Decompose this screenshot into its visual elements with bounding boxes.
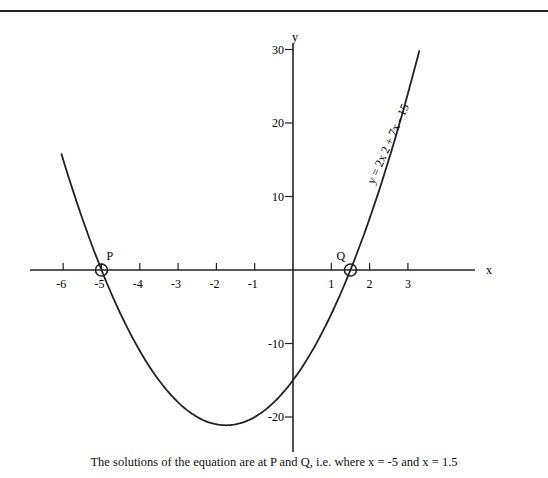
y-tick-label: 20 [272,116,284,130]
x-tick-label: -2 [209,277,219,291]
caption: The solutions of the equation are at P a… [0,455,548,470]
x-axis-label: x [486,263,492,277]
equation-label: y = 2x 2 + 7x - 15 [364,101,412,186]
root-label-p: P [107,249,114,263]
y-axis-label: y [292,30,298,44]
x-tick-label: 1 [328,277,334,291]
x-tick-label: -1 [248,277,258,291]
parabola-curve [61,50,419,425]
parabola-chart: xy-6-5-4-3-2-1123302010-10-20PQy = 2x 2 … [0,0,548,478]
y-tick-label: -20 [268,410,284,424]
x-tick-label: -5 [95,277,105,291]
x-tick-label: -3 [171,277,181,291]
y-tick-label: 10 [272,190,284,204]
x-tick-label: 3 [405,277,411,291]
x-tick-label: -4 [133,277,143,291]
root-label-q: Q [336,249,345,263]
y-tick-label: 30 [272,43,284,57]
x-tick-label: 2 [367,277,373,291]
x-tick-label: -6 [56,277,66,291]
y-tick-label: -10 [268,337,284,351]
